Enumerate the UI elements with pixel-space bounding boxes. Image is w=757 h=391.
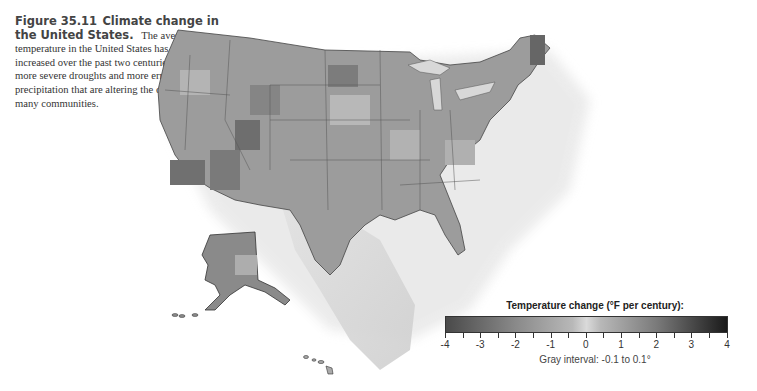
tick-label: -1	[546, 339, 555, 350]
figure-label: Figure 35.11	[15, 14, 97, 28]
tick-label: -2	[511, 339, 520, 350]
legend-title: Temperature change (°F per century):	[450, 300, 740, 311]
legend-note: Gray interval: -0.1 to 0.1°	[450, 354, 740, 365]
tick-label: -4	[441, 339, 450, 350]
tick-label: 4	[724, 339, 730, 350]
tick-label: 2	[653, 339, 659, 350]
temperature-legend: Temperature change (°F per century): -4 …	[440, 300, 740, 365]
tick-label: -3	[476, 339, 485, 350]
hawaii	[304, 356, 334, 375]
tick-label: 3	[689, 339, 695, 350]
legend-tick-labels: -4 -3 -2 -1 0 1 2 3 4	[445, 339, 728, 351]
tick-label: 0	[583, 339, 589, 350]
tick-label: 1	[618, 339, 624, 350]
legend-color-bar	[445, 316, 728, 333]
aleutian-islands	[172, 314, 198, 318]
